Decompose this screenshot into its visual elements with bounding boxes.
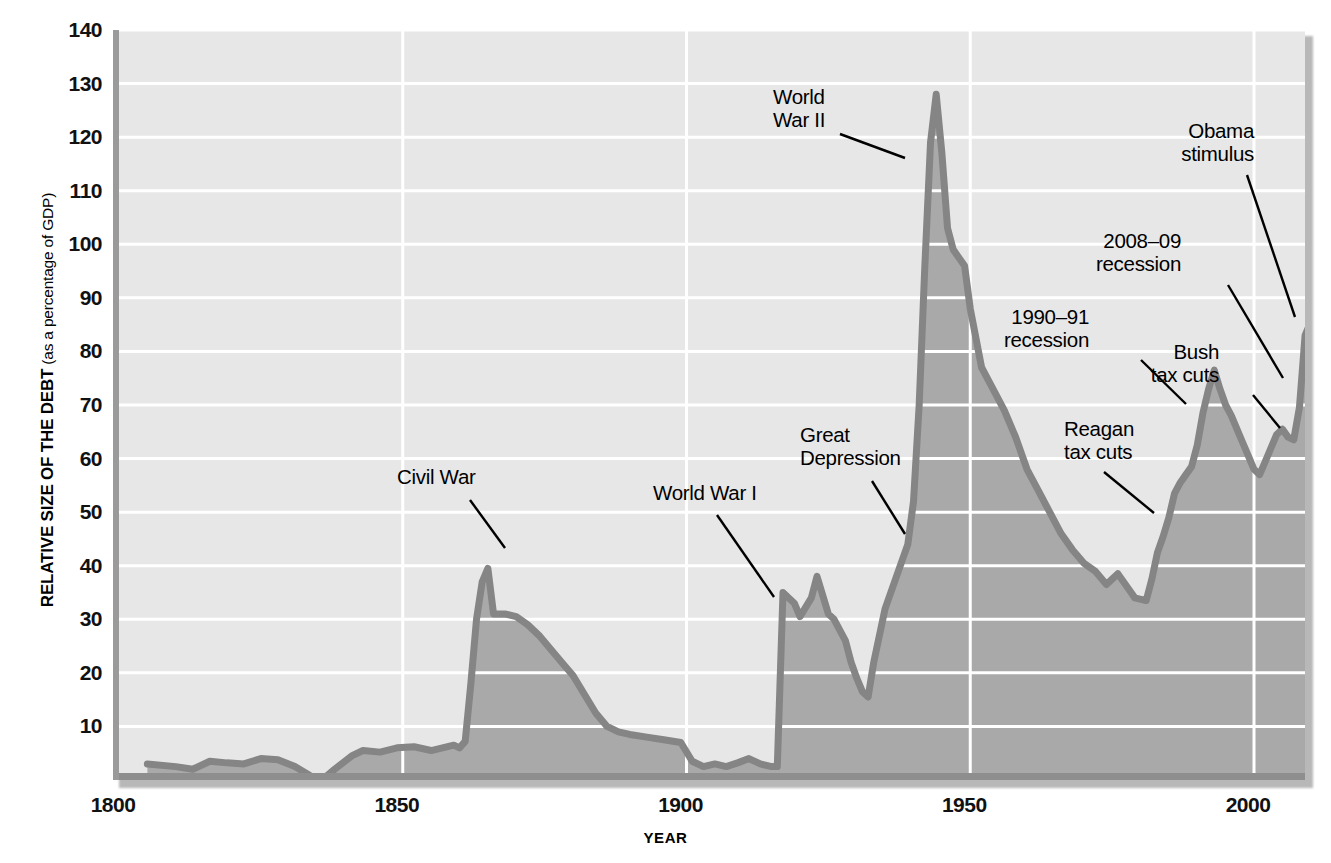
x-tick-label: 1800 (53, 793, 173, 817)
x-axis-title: YEAR (0, 829, 1331, 846)
x-tick-label: 1900 (621, 793, 741, 817)
debt-to-gdp-chart-figure: RELATIVE SIZE OF THE DEBT (as a percenta… (0, 0, 1331, 863)
x-tick-label: 1850 (337, 793, 457, 817)
x-tick-label: 1950 (904, 793, 1024, 817)
x-tick-label: 2000 (1188, 793, 1308, 817)
x-tick-labels: 18001850190019502000 (0, 0, 1331, 863)
